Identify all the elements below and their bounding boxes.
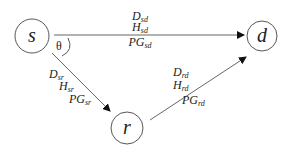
edge-sd-labels: Dsd Hsd PGsd <box>127 9 152 50</box>
label-pg-rd: PGrd <box>181 93 206 108</box>
angle-arc <box>62 38 70 56</box>
node-r-label: r <box>123 116 131 138</box>
node-s: s <box>15 19 49 53</box>
node-r: r <box>111 112 143 144</box>
relay-diagram: s d r Dsd Hsd PGsd θ Dsr Hsr PGsr Drd Hr… <box>0 0 290 152</box>
label-h-rd: Hrd <box>172 78 189 93</box>
node-d: d <box>247 21 277 51</box>
node-s-label: s <box>28 24 36 46</box>
edge-rd-arrow <box>150 57 246 120</box>
angle-theta-label: θ <box>56 39 62 53</box>
label-pg-sd: PGsd <box>127 35 152 50</box>
node-d-label: d <box>257 24 268 46</box>
label-pg-sr: PGsr <box>68 92 92 107</box>
